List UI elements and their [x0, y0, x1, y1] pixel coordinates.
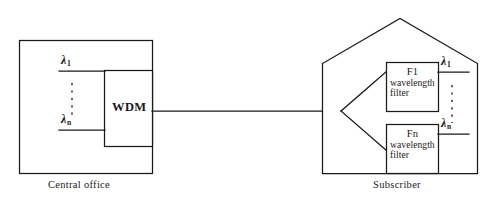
filter-fn-desc-line2: filter: [390, 150, 435, 160]
subscriber-caption: Subscriber: [373, 179, 421, 190]
wdm-network-diagram: λ1 λn WDM Central office F1 wavelength f…: [0, 0, 501, 207]
lambda-symbol: λ: [61, 112, 66, 126]
central-office-caption: Central office: [48, 179, 110, 190]
lambda-subscript: 1: [447, 60, 451, 69]
input-label-lambda-1: λ1: [61, 54, 70, 67]
filter-fn-name: Fn: [390, 128, 435, 139]
filter-f1-desc-line2: filter: [390, 88, 435, 98]
lambda-subscript: n: [447, 122, 451, 131]
lambda-symbol: λ: [441, 116, 446, 130]
lambda-subscript: n: [67, 118, 71, 127]
filter-f1-label: F1 wavelength filter: [390, 66, 435, 99]
lambda-subscript: 1: [67, 59, 71, 68]
lambda-symbol: λ: [61, 53, 66, 67]
diagram-canvas: [0, 0, 501, 207]
wdm-label: WDM: [112, 101, 147, 115]
filter-fn-label: Fn wavelength filter: [390, 128, 435, 161]
filter-f1-name: F1: [390, 66, 435, 77]
lambda-symbol: λ: [441, 54, 446, 68]
output-label-lambda-n: λn: [441, 117, 451, 130]
input-label-lambda-n: λn: [61, 113, 71, 126]
output-label-lambda-1: λ1: [441, 55, 450, 68]
